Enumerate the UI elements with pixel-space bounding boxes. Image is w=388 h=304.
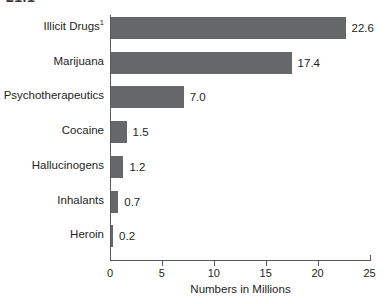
- bar: [111, 156, 123, 178]
- bar: [111, 121, 127, 143]
- category-label: Cocaine: [62, 124, 104, 136]
- bar-value-label: 7.0: [184, 91, 206, 103]
- category-label: Illicit Drugs1: [44, 20, 104, 32]
- x-axis-tick: [214, 261, 215, 266]
- bar-value-label: 22.6: [346, 22, 374, 34]
- bar-value-label: 0.7: [118, 196, 140, 208]
- category-label: Hallucinogens: [32, 159, 104, 171]
- bar: [111, 191, 118, 213]
- bar-row: 7.0: [111, 86, 370, 108]
- category-label: Psychotherapeutics: [4, 89, 104, 101]
- x-axis-tick-label: 20: [311, 267, 323, 279]
- category-label: Inhalants: [57, 194, 104, 206]
- footnote-marker: 1: [100, 18, 104, 27]
- bar-value-label: 0.2: [113, 230, 135, 242]
- bar-value-label: 1.2: [123, 161, 145, 173]
- plot-area: 22.617.47.01.51.20.70.2: [111, 17, 370, 259]
- x-axis-tick-label: 15: [260, 267, 272, 279]
- bar-row: 22.6: [111, 17, 370, 39]
- bar-row: 1.5: [111, 121, 370, 143]
- x-axis-tick: [162, 261, 163, 266]
- x-axis-tick-label: 10: [208, 267, 220, 279]
- bar-value-label: 17.4: [292, 57, 320, 69]
- bar-chart: 0510152025 Illicit Drugs1MarijuanaPsycho…: [0, 0, 388, 304]
- bar-row: 0.7: [111, 191, 370, 213]
- x-axis-tick-label: 5: [159, 267, 165, 279]
- bar: [111, 17, 346, 39]
- x-axis-tick: [266, 261, 267, 266]
- bar-row: 1.2: [111, 156, 370, 178]
- x-axis-tick-label: 25: [363, 267, 375, 279]
- x-axis-line: [110, 260, 371, 261]
- y-axis-category-labels: Illicit Drugs1MarijuanaPsychotherapeutic…: [0, 17, 104, 259]
- bar-row: 0.2: [111, 225, 370, 247]
- bar: [111, 52, 292, 74]
- x-axis-tick-label: 0: [107, 267, 113, 279]
- bar-value-label: 1.5: [127, 126, 149, 138]
- x-axis-tick: [318, 261, 319, 266]
- x-axis-title: Numbers in Millions: [111, 283, 370, 295]
- category-label: Heroin: [70, 228, 104, 240]
- bar: [111, 86, 184, 108]
- category-label: Marijuana: [54, 55, 105, 67]
- bar-row: 17.4: [111, 52, 370, 74]
